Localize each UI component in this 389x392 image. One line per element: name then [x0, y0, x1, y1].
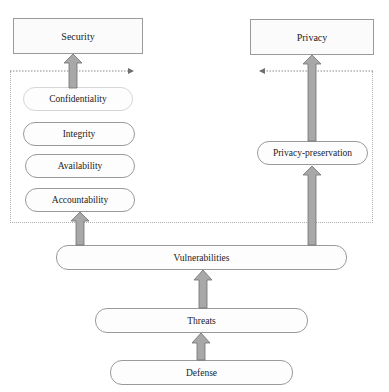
privacy-preservation-label: Privacy-preservation	[273, 148, 352, 158]
arrow-up-icon	[194, 270, 212, 308]
threats-label: Threats	[187, 316, 216, 326]
vulnerabilities-label: Vulnerabilities	[174, 253, 230, 263]
availability-label: Availability	[58, 161, 103, 171]
privacy-preservation-node: Privacy-preservation	[257, 141, 368, 165]
arrow-up-icon	[192, 333, 210, 360]
integrity-node: Integrity	[23, 122, 135, 146]
threats-node: Threats	[95, 308, 308, 333]
privacy-node: Privacy	[250, 19, 374, 55]
security-node: Security	[13, 18, 143, 54]
confidentiality-label: Confidentiality	[49, 94, 107, 104]
security-label: Security	[61, 31, 94, 42]
accountability-node: Accountability	[25, 188, 135, 212]
vulnerabilities-node: Vulnerabilities	[56, 245, 347, 270]
defense-node: Defense	[110, 360, 293, 385]
privacy-label: Privacy	[297, 32, 328, 43]
availability-node: Availability	[25, 154, 135, 178]
confidentiality-node: Confidentiality	[23, 87, 133, 111]
defense-label: Defense	[186, 368, 217, 378]
accountability-label: Accountability	[52, 195, 108, 205]
integrity-label: Integrity	[63, 129, 96, 139]
